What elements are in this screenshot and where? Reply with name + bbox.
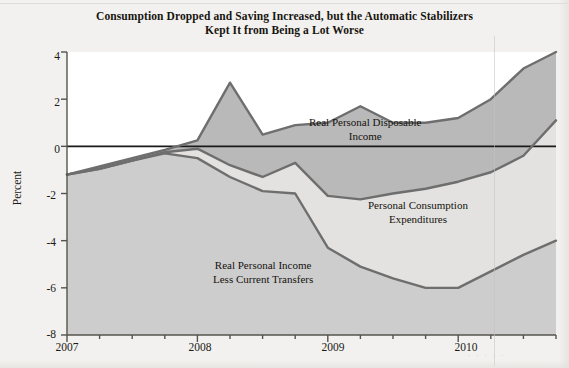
series-label-personal-consumption-expenditures: Personal Consumption Expenditures [368, 199, 468, 226]
y-tick-label-neg8: -8 [34, 328, 56, 340]
series-label-real-personal-income-less-current-transfers: Real Personal Income Less Current Transf… [213, 259, 313, 286]
scan-artifact-column [494, 36, 495, 366]
page-edge-shadow-right [559, 0, 569, 368]
series-label-pce-line2: Expenditures [368, 213, 468, 227]
series-label-rpilct-line2: Less Current Transfers [213, 273, 313, 287]
plot-area: 4 2 0 -2 -4 -6 -8 Percent 2007 2008 2009… [0, 0, 569, 368]
series-label-real-personal-disposable-income: Real Personal Disposable Income [309, 116, 421, 143]
x-tick-label-2007: 2007 [44, 341, 90, 353]
series-label-rpdi-line2: Income [309, 130, 421, 144]
y-axis-title: Percent [11, 158, 23, 218]
chart-page: Consumption Dropped and Saving Increased… [0, 0, 569, 368]
page-edge-shadow-bottom [0, 360, 569, 368]
y-tick-label-0: 0 [38, 143, 60, 155]
y-tick-label-4: 4 [38, 50, 60, 62]
y-tick-label-neg4: -4 [34, 236, 56, 248]
y-tick-label-neg6: -6 [34, 282, 56, 294]
series-label-pce-line1: Personal Consumption [368, 199, 468, 213]
series-label-rpilct-line1: Real Personal Income [213, 259, 313, 273]
y-tick-label-neg2: -2 [34, 189, 56, 201]
x-tick-label-2009: 2009 [310, 341, 356, 353]
x-tick-label-2008: 2008 [177, 341, 223, 353]
chart-svg [0, 0, 569, 368]
y-tick-label-2: 2 [38, 96, 60, 108]
series-label-rpdi-line1: Real Personal Disposable [309, 116, 421, 130]
